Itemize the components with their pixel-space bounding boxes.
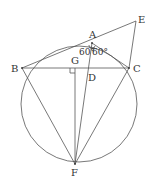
angle-label-right: 60° [92, 47, 108, 57]
label-B: B [11, 63, 18, 74]
label-G: G [71, 55, 79, 66]
label-F: F [71, 167, 78, 178]
label-D: D [88, 72, 96, 83]
diagram-canvas: A B C D E F G 60° 60° [0, 0, 154, 179]
segment-BF [22, 68, 75, 164]
segment-CF [75, 68, 129, 164]
circumcircle [21, 46, 137, 162]
label-C: C [133, 63, 141, 74]
right-angle-mark-G [70, 68, 75, 73]
segment-EC [129, 21, 136, 68]
label-E: E [138, 14, 145, 25]
geometry-diagram: A B C D E F G 60° 60° [0, 0, 154, 179]
label-A: A [88, 29, 97, 40]
